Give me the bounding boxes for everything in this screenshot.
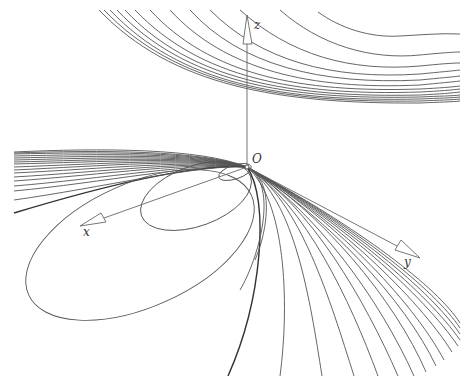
lower-curve-family [228, 167, 460, 376]
x-axis-label: x [83, 225, 90, 239]
diagram-canvas: z x y O [0, 0, 471, 376]
left-curve-family [14, 150, 247, 213]
origin-point [245, 165, 249, 169]
upper-curve-family [99, 10, 460, 103]
y-axis [247, 167, 397, 246]
origin-label: O [252, 152, 262, 166]
axes [80, 15, 420, 258]
z-axis-label: z [253, 18, 261, 32]
y-axis-label: y [403, 255, 411, 269]
